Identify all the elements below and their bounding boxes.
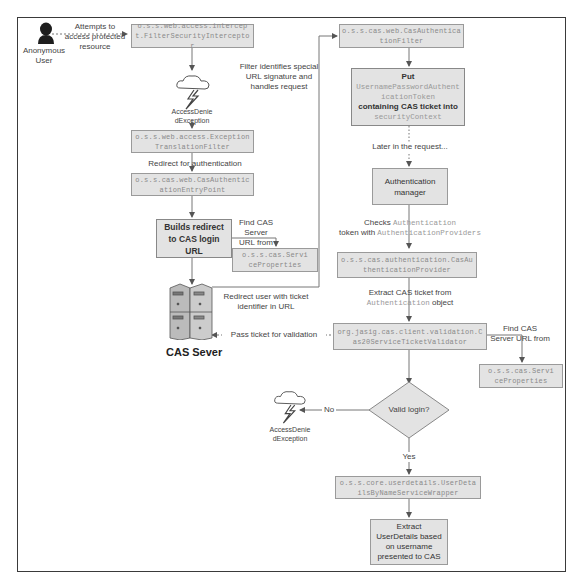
cas-server-label: CAS Sever <box>166 346 222 358</box>
builds-redirect-box: Builds redirect to CAS login URL <box>156 219 232 258</box>
cas-server-icon <box>168 282 214 340</box>
extract-user-details-box: Extract UserDetails based on username pr… <box>370 519 448 565</box>
redirect-user-label: Redirect user with ticket identifier in … <box>218 292 314 312</box>
put-token-box: Put UsernamePasswordAuthenticationToken … <box>351 68 465 126</box>
extract-text-2: object <box>432 298 453 307</box>
find-cas-right-label: Find CAS Server URL from <box>490 324 550 344</box>
put-token-text-1: Put <box>402 72 415 82</box>
user-details-wrapper-box: o.s.s.core.userdetails.UserDetailsByName… <box>335 476 481 499</box>
extract-ticket-label: Extract CAS ticket from Authentication o… <box>350 288 470 308</box>
checks-text-1: Checks <box>364 218 391 227</box>
checks-mono-1: Authentication <box>393 219 456 227</box>
yes-label: Yes <box>398 452 420 462</box>
exception-translation-filter-box: o.s.s.web.access.ExceptionTranslationFil… <box>131 130 254 153</box>
access-denied-exception-top: AccessDeniedException <box>170 107 214 125</box>
cas20-validator-box: org.jasig.cas.client.validation.Cas20Ser… <box>333 323 487 350</box>
attempts-label: Attempts to access protected resource <box>62 22 128 52</box>
exception-cloud-icon <box>174 72 212 110</box>
redirect-for-auth-label: Redirect for authentication <box>140 159 250 169</box>
cas-authentication-filter-box: o.s.s.cas.web.CasAuthenticationFilter <box>339 24 464 48</box>
checks-mono-2: AuthenticationProviders <box>377 229 481 237</box>
put-token-text-3: containing CAS ticket into <box>358 102 458 112</box>
extract-text-1: Extract CAS ticket from <box>369 288 452 297</box>
valid-login-label: Valid login? <box>376 405 442 415</box>
find-cas-left-label: Find CAS Server URL from <box>236 218 276 248</box>
cas-auth-entry-point-box: o.s.s.cas.web.CasAuthenticationEntryPoin… <box>131 173 254 196</box>
later-in-request-label: Later in the request... <box>366 142 454 152</box>
pass-ticket-label: Pass ticket for validation <box>222 330 326 340</box>
authentication-manager-box: Authentication manager <box>372 168 448 205</box>
anonymous-user-label: Anonymous User <box>22 46 66 66</box>
exception-cloud-icon <box>272 388 308 424</box>
service-properties-right-box: o.s.s.cas.ServiceProperties <box>479 364 563 388</box>
no-label: No <box>322 405 336 415</box>
checks-label: Checks Authentication token with Authent… <box>330 218 490 238</box>
put-token-text-2: UsernamePasswordAuthenticationToken <box>355 82 461 102</box>
extract-mono: Authentication <box>367 299 430 307</box>
checks-text-2: token with <box>339 228 375 237</box>
put-token-text-4: securityContext <box>374 112 442 122</box>
filter-identifies-label: Filter identifies special URL signature … <box>238 62 320 92</box>
filter-security-interceptor-box: o.s.s.web.access.intercept.FilterSecurit… <box>131 24 254 48</box>
cas-auth-provider-box: o.s.s.cas.authentication.CasAuthenticati… <box>337 252 477 278</box>
access-denied-exception-bottom: AccessDeniedException <box>268 425 312 443</box>
anonymous-user-icon <box>36 22 56 44</box>
service-properties-left-box: o.s.s.cas.ServiceProperties <box>232 248 318 272</box>
